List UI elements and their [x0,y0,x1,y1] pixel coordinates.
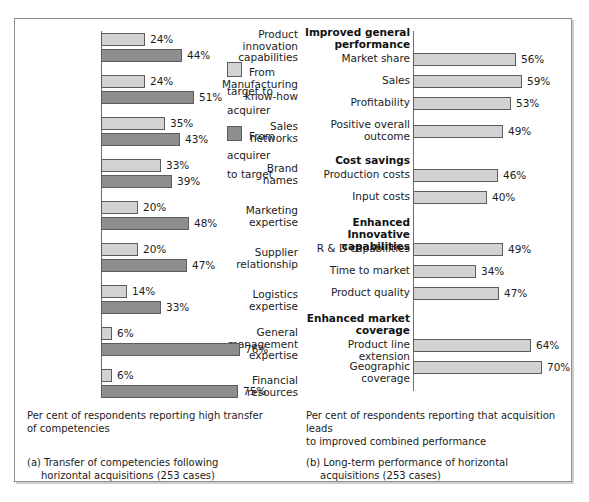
legend: From target to acquirer From acquirer to… [227,61,297,189]
panel-a-bar [101,133,180,146]
panel-a-bar-value: 43% [185,133,208,146]
panel-a-bar [101,159,161,172]
panel-b-bar-value: 46% [503,169,526,182]
panel-b-category-label: Sales [298,75,410,87]
panel-a-bar [101,33,145,46]
panel-a-bar-value: 44% [187,49,210,62]
panel-a-axis-note: Per cent of respondents reporting high t… [27,409,277,435]
panel-b-section-heading: Cost savings [298,155,410,167]
panel-b-category-label: Market share [298,53,410,65]
panel-b-bar [413,361,542,374]
panel-a-bar [101,259,187,272]
panel-b-bar [413,287,499,300]
panel-a-bar [101,75,145,88]
panel-b-section-heading: Enhanced market coverage [298,313,410,337]
panel-a-bar-value: 48% [194,217,217,230]
panel-a-bar [101,343,240,356]
panel-a-bar-value: 47% [192,259,215,272]
panel-b-bar [413,243,503,256]
panel-b-bar [413,125,503,138]
legend-swatch-light [227,62,242,77]
panel-a-bar [101,49,182,62]
legend-swatch-dark [227,126,242,141]
panel-b-category-label: R & D capabilities [298,243,410,255]
panel-b-bar [413,339,531,352]
panel-b-bar [413,97,511,110]
panel-a-caption-line2: horizontal acquisitions (253 cases) [27,469,277,482]
panel-b-bar-value: 56% [521,53,544,66]
panel-b-category-label: Geographic coverage [298,361,410,384]
panel-b-bar [413,53,516,66]
panel-a-bar-value: 33% [166,301,189,314]
panel-a-bar [101,243,138,256]
panel-b-category-label: Production costs [298,169,410,181]
panel-a-bar [101,385,238,398]
panel-a-bar-value: 39% [177,175,200,188]
panel-b-bar-value: 70% [547,361,570,374]
panel-b-section-heading: Improved general performance [298,27,410,51]
panel-a-bar-value: 33% [166,159,189,172]
panel-a-bar [101,327,112,340]
panel-b-category-label: Product line extension [298,339,410,362]
panel-a-bar-value: 76% [245,343,268,356]
panel-b-category-label: Profitability [298,97,410,109]
panel-a-transfer-of-competencies: Product innovation capabilities24%44%Man… [15,19,298,481]
panel-b-category-label: Positive overall outcome [298,119,410,142]
panel-a-bar-value: 24% [150,75,173,88]
panel-a-bar [101,91,194,104]
panel-b-long-term-performance: Improved general performanceMarket share… [298,19,573,481]
panel-b-bar-value: 47% [504,287,527,300]
panel-a-category-label: Supplier relationship [220,247,298,270]
panel-a-bar-value: 51% [199,91,222,104]
panel-b-caption-line2: acquisitions (253 cases) [306,469,568,482]
panel-a-bar [101,285,127,298]
panel-b-bar [413,169,498,182]
panel-a-caption: (a) Transfer of competencies following h… [27,443,277,495]
figure-frame: Product innovation capabilities24%44%Man… [14,18,572,482]
panel-b-bar-value: 40% [492,191,515,204]
panel-a-category-label: Product innovation capabilities [220,29,298,64]
panel-b-category-label: Time to market [298,265,410,277]
panel-a-bar-value: 24% [150,33,173,46]
panel-b-bar [413,75,522,88]
panel-b-bar-value: 53% [516,97,539,110]
panel-b-category-label: Product quality [298,287,410,299]
panel-a-bar [101,217,189,230]
panel-b-bar-value: 59% [527,75,550,88]
panel-a-bar-value: 20% [143,201,166,214]
panel-a-bar-value: 75% [243,385,266,398]
legend-item-target-to-acquirer: From target to acquirer [227,61,297,118]
panel-b-bar-value: 49% [508,243,531,256]
panel-a-bar [101,201,138,214]
panel-a-bar-value: 20% [143,243,166,256]
legend-item-acquirer-to-target: From acquirer to target [227,125,297,182]
panel-b-bar [413,265,476,278]
panel-a-category-label: Marketing expertise [220,205,298,228]
panel-b-bar-value: 49% [508,125,531,138]
panel-b-caption: (b) Long-term performance of horizontal … [306,443,568,495]
panel-b-caption-line1: (b) Long-term performance of horizontal [306,457,508,468]
panel-a-bar [101,117,165,130]
panel-a-bar-value: 6% [117,369,134,382]
panel-a-bar-value: 35% [170,117,193,130]
panel-b-bar-value: 64% [536,339,559,352]
panel-b-category-label: Input costs [298,191,410,203]
panel-b-bar [413,191,487,204]
panel-a-bar [101,175,172,188]
panel-a-bar-value: 14% [132,285,155,298]
panel-a-bar [101,369,112,382]
panel-a-bar [101,301,161,314]
panel-b-bar-value: 34% [481,265,504,278]
panel-a-caption-line1: (a) Transfer of competencies following [27,457,218,468]
panel-a-bar-value: 6% [117,327,134,340]
panel-a-category-label: Logistics expertise [220,289,298,312]
